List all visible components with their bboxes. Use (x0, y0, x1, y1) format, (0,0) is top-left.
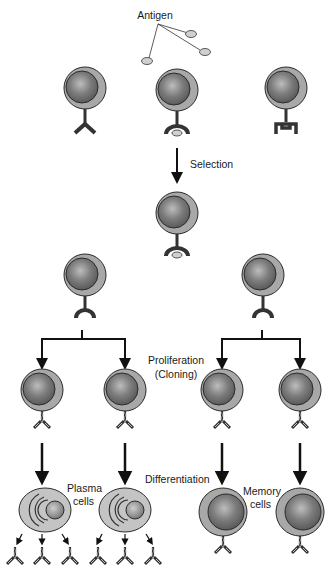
memory-label: Memory (243, 485, 282, 497)
antigen-pointers (149, 24, 200, 58)
clonal-selection-diagram: Antigen Selection (0, 0, 333, 575)
y-receptor-icon (75, 124, 95, 133)
antigen-label: Antigen (137, 9, 173, 21)
activated-cell-left (64, 254, 106, 318)
plasma-label: Plasma (67, 482, 102, 494)
square-receptor-icon (276, 124, 296, 134)
secreted-antibodies (7, 547, 161, 564)
selected-cell (156, 192, 198, 258)
selection-label: Selection (190, 158, 233, 170)
differentiation-label: Differentiation (145, 473, 210, 485)
naive-b-cell-2-selected (156, 69, 198, 136)
memory-cell-1 (199, 488, 247, 553)
proliferation-branch-right (222, 330, 300, 364)
naive-b-cell-3 (265, 67, 307, 134)
plasma-cells-label: cells (73, 495, 94, 507)
proliferation-label: Proliferation (148, 354, 204, 366)
proliferation-branch-left (42, 330, 125, 364)
naive-b-cell-1 (64, 67, 106, 133)
plasma-cell-2 (99, 488, 151, 532)
secreted-antibody-arrows (18, 534, 151, 542)
memory-cells-label: cells (250, 498, 271, 510)
cloning-label: (Cloning) (155, 368, 198, 380)
plasma-cell-1 (19, 488, 71, 532)
cloned-cell-4 (279, 369, 321, 428)
cloned-cell-3 (201, 369, 243, 428)
cloned-cell-2 (104, 369, 146, 428)
cloned-cell-1 (21, 369, 63, 428)
bound-antigen-icon (172, 130, 182, 136)
memory-cell-2 (276, 488, 324, 553)
activated-cell-right (242, 254, 284, 318)
